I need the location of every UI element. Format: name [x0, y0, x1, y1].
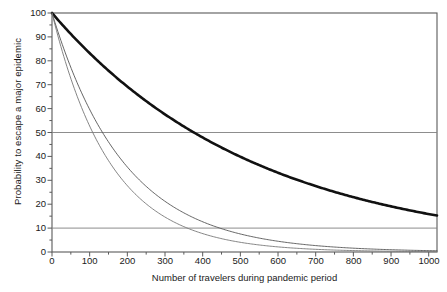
- chart-figure: Probability to escape a major epidemic 1…: [0, 0, 447, 292]
- plot-area: [0, 0, 447, 292]
- thick-curve: [52, 13, 437, 216]
- reference-lines: [52, 133, 437, 229]
- middle-thin-curve: [52, 13, 437, 251]
- axis-ticks: [48, 13, 429, 257]
